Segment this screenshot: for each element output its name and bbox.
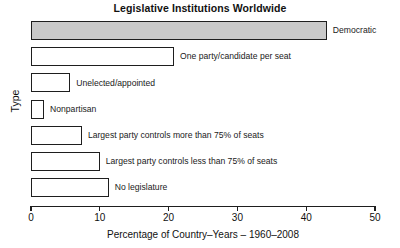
y-axis-label: Type [9, 78, 21, 124]
bar-chart: Legislative Institutions Worldwide Type … [0, 0, 400, 248]
bar-row: Unelected/appointed [31, 73, 375, 92]
plot-area: DemocraticOne party/candidate per seatUn… [31, 18, 375, 204]
bar-rect [31, 100, 44, 119]
bar-rect [31, 21, 327, 40]
x-tick-mark [99, 206, 100, 211]
bar-row: Largest party controls less than 75% of … [31, 152, 375, 171]
bar-label: Nonpartisan [50, 105, 96, 114]
bar-row: Democratic [31, 21, 375, 40]
bar-row: Nonpartisan [31, 100, 375, 119]
bar-rect [31, 73, 70, 92]
x-tick-label: 10 [94, 212, 105, 223]
x-tick-mark [237, 206, 238, 211]
bar-rect [31, 126, 82, 145]
bar-row: No legislature [31, 178, 375, 197]
x-axis-label: Percentage of Country–Years – 1960–2008 [31, 229, 375, 240]
bar-label: No legislature [115, 183, 168, 192]
x-tick-label: 20 [163, 212, 174, 223]
x-tick-mark [168, 206, 169, 211]
bar-label: Largest party controls more than 75% of … [88, 131, 264, 140]
bar-rect [31, 178, 109, 197]
bar-rect [31, 152, 100, 171]
bar-label: Democratic [333, 26, 376, 35]
bar-label: Unelected/appointed [76, 79, 155, 88]
chart-title: Legislative Institutions Worldwide [0, 2, 400, 14]
x-tick-mark [306, 206, 307, 211]
bar-rect [31, 47, 174, 66]
x-tick-label: 0 [28, 212, 34, 223]
bar-label: One party/candidate per seat [180, 52, 291, 61]
x-tick-label: 50 [369, 212, 380, 223]
bar-row: Largest party controls more than 75% of … [31, 126, 375, 145]
x-axis-line [31, 206, 375, 207]
x-tick-label: 30 [232, 212, 243, 223]
x-tick-mark [374, 206, 375, 211]
bar-label: Largest party controls less than 75% of … [106, 157, 278, 166]
x-tick-label: 40 [301, 212, 312, 223]
bar-row: One party/candidate per seat [31, 47, 375, 66]
x-tick-mark [30, 206, 31, 211]
